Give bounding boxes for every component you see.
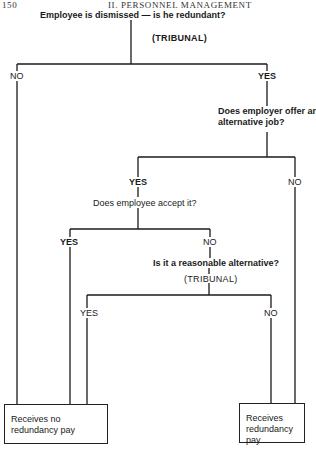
branch-label-q3-yes: YES [60, 237, 78, 247]
outcome-no-redundancy-pay: Receives no redundancy pay [4, 404, 108, 444]
question-alternative-job: Does employer offer an alternative job? [218, 106, 316, 128]
branch-label-q2-yes: YES [129, 177, 147, 187]
flowchart-connectors [0, 0, 316, 449]
outcome-no-redundancy-pay-text: Receives no redundancy pay [11, 414, 101, 436]
question-alternative-job-line2: alternative job? [218, 117, 316, 128]
outcome-redundancy-pay-text: Receives redundancy pay [246, 413, 306, 446]
question-reasonable-alternative: Is it a reasonable alternative? [153, 258, 279, 269]
decider-tribunal-1: (TRIBUNAL) [152, 33, 207, 43]
branch-label-q1-no: NO [10, 71, 24, 81]
question-employee-accept: Does employee accept it? [93, 198, 197, 209]
branch-label-q4-no: NO [264, 308, 278, 318]
decider-tribunal-2: (TRIBUNAL) [184, 274, 238, 284]
question-alternative-job-line1: Does employer offer an [218, 106, 316, 117]
branch-label-q3-no: NO [203, 237, 217, 247]
question-is-redundant: Employee is dismissed — is he redundant? [40, 10, 226, 21]
branch-label-q1-yes: YES [258, 71, 276, 81]
branch-label-q2-no: NO [288, 177, 302, 187]
branch-label-q4-yes: YES [80, 308, 98, 318]
outcome-redundancy-pay: Receives redundancy pay [239, 403, 305, 443]
